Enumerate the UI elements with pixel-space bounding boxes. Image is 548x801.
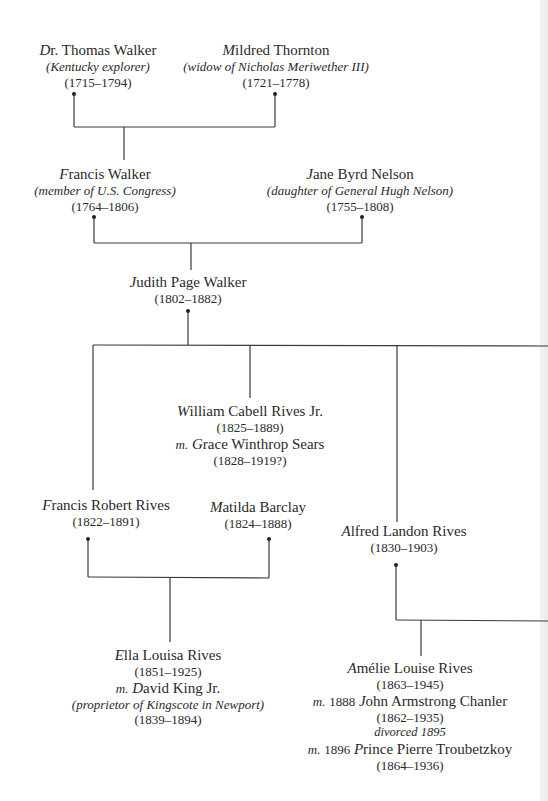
person-francis-walker: Francis Walker (member of U.S. Congress)… <box>34 166 175 214</box>
first-spouse-dates: (1862–1935) <box>308 710 512 726</box>
person-dates: (1721–1778) <box>183 75 369 91</box>
person-dates: (1830–1903) <box>342 540 467 556</box>
spouse-name: m. David King Jr. <box>72 680 264 697</box>
person-name: Jane Byrd Nelson <box>267 166 453 183</box>
person-name: Francis Walker <box>34 166 175 183</box>
person-dates: (1715–1794) <box>40 75 157 91</box>
spouse-dates: (1839–1894) <box>72 712 264 728</box>
person-name: Ella Louisa Rives <box>72 647 264 664</box>
person-name: Amélie Louise Rives <box>308 660 512 677</box>
person-thomas-walker: Dr. Thomas Walker (Kentucky explorer) (1… <box>40 42 157 90</box>
person-name: Alfred Landon Rives <box>342 523 467 540</box>
person-judith-page-walker: Judith Page Walker (1802–1882) <box>130 274 247 307</box>
person-name: Francis Robert Rives <box>42 497 169 514</box>
person-dates: (1802–1882) <box>130 291 247 307</box>
person-dates: (1822–1891) <box>42 514 169 530</box>
divorce-note: divorced 1895 <box>308 725 512 741</box>
spouse-dates: (1828–1919?) <box>176 453 325 469</box>
person-dates: (1755–1808) <box>267 199 453 215</box>
person-name: William Cabell Rives Jr. <box>176 403 325 420</box>
person-francis-robert-rives: Francis Robert Rives (1822–1891) <box>42 497 169 530</box>
person-name: Dr. Thomas Walker <box>40 42 157 59</box>
spouse-name: m. Grace Winthrop Sears <box>176 436 325 453</box>
person-dates: (1863–1945) <box>308 677 512 693</box>
person-dates: (1764–1806) <box>34 199 175 215</box>
second-spouse-name: m. 1896 Prince Pierre Troubetzkoy <box>308 741 512 758</box>
person-dates: (1825–1889) <box>176 420 325 436</box>
person-alfred-landon-rives: Alfred Landon Rives (1830–1903) <box>342 523 467 556</box>
person-name: Mildred Thornton <box>183 42 369 59</box>
person-note: (Kentucky explorer) <box>40 59 157 75</box>
person-amelie-louise-rives: Amélie Louise Rives (1863–1945) m. 1888 … <box>308 660 512 773</box>
person-name: Judith Page Walker <box>130 274 247 291</box>
person-note: (daughter of General Hugh Nelson) <box>267 183 453 199</box>
person-jane-byrd-nelson: Jane Byrd Nelson (daughter of General Hu… <box>267 166 453 214</box>
person-william-cabell-rives: William Cabell Rives Jr. (1825–1889) m. … <box>176 403 325 468</box>
person-note: (member of U.S. Congress) <box>34 183 175 199</box>
person-dates: (1851–1925) <box>72 664 264 680</box>
person-matilda-barclay: Matilda Barclay (1824–1888) <box>210 499 306 532</box>
person-dates: (1824–1888) <box>210 516 306 532</box>
person-mildred-thornton: Mildred Thornton (widow of Nicholas Meri… <box>183 42 369 90</box>
first-spouse-name: m. 1888 John Armstrong Chanler <box>308 693 512 710</box>
spouse-note: (proprietor of Kingscote in Newport) <box>72 697 264 713</box>
person-note: (widow of Nicholas Meriwether III) <box>183 59 369 75</box>
second-spouse-dates: (1864–1936) <box>308 758 512 774</box>
person-name: Matilda Barclay <box>210 499 306 516</box>
person-ella-louisa-rives: Ella Louisa Rives (1851–1925) m. David K… <box>72 647 264 728</box>
